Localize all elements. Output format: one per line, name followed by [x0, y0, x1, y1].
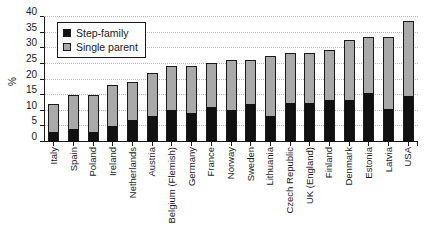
stacked-bar [186, 66, 197, 142]
stacked-bar [324, 50, 335, 142]
legend-swatch-icon [63, 43, 71, 51]
x-label-cell: Finland [320, 147, 340, 237]
x-axis-tick-label: Sweden [246, 147, 256, 181]
stacked-bar [363, 37, 374, 142]
y-axis-tick-label: 35 [26, 23, 37, 33]
legend-item-label: Step-family [76, 28, 129, 39]
bar-column [398, 17, 418, 142]
x-axis-labels: ItalySpainPolandIrelandNetherlandsAustri… [44, 147, 418, 237]
x-axis-tick [368, 142, 369, 146]
x-label-cell: France [202, 147, 222, 237]
x-label-cell: Sweden [241, 147, 261, 237]
y-axis-tick-label: 20 [26, 70, 37, 80]
stacked-bar [344, 40, 355, 142]
y-axis-tick-label: 15 [26, 85, 37, 95]
y-axis-tick-label: 40 [26, 7, 37, 17]
bar-segment-step-family [384, 109, 393, 142]
x-tick-cell [162, 142, 182, 146]
bar-segment-step-family [305, 103, 314, 142]
bar-column [339, 17, 359, 142]
bar-segment-step-family [404, 96, 413, 142]
bar-segment-step-family [128, 120, 137, 143]
x-tick-cell [123, 142, 143, 146]
x-label-cell: Germany [182, 147, 202, 237]
bar-segment-step-family [167, 110, 176, 142]
x-axis-tick-label: Spain [69, 147, 79, 171]
x-tick-cell [241, 142, 261, 146]
x-axis-tick-label: Austria [147, 147, 157, 177]
y-axis-tick-label: 5 [31, 116, 37, 126]
x-label-cell: Denmark [339, 147, 359, 237]
stacked-bar [68, 95, 79, 142]
bar-column [379, 17, 399, 142]
bar-segment-step-family [325, 100, 334, 142]
bar-column [359, 17, 379, 142]
x-axis-tick [250, 142, 251, 146]
x-tick-cell [44, 142, 64, 146]
x-axis-tick-label: Belgium (Flemish) [167, 147, 177, 224]
x-axis-tick [73, 142, 74, 146]
x-axis-tick [53, 142, 54, 146]
bar-segment-step-family [108, 126, 117, 142]
y-axis-tick-label: 25 [26, 54, 37, 64]
x-axis-tick [112, 142, 113, 146]
x-axis-tick-label: Denmark [344, 147, 354, 186]
bar-column [241, 17, 261, 142]
stacked-bar [265, 56, 276, 142]
x-label-cell: Lithuania [261, 147, 281, 237]
y-axis-tick-label: 30 [26, 38, 37, 48]
bar-segment-step-family [89, 132, 98, 142]
x-axis-tick-label: France [206, 147, 216, 177]
x-label-cell: Spain [64, 147, 84, 237]
x-axis-tick [152, 142, 153, 146]
chart-legend: Step-familySingle parent [57, 22, 146, 58]
x-label-cell: Austria [142, 147, 162, 237]
x-axis-tick [388, 142, 389, 146]
x-label-cell: Poland [83, 147, 103, 237]
bar-column [261, 17, 281, 142]
x-axis-tick [171, 142, 172, 146]
x-axis-end-tick [417, 142, 418, 146]
x-axis-tick-label: Finland [324, 147, 334, 178]
x-label-cell: UK (England) [300, 147, 320, 237]
x-label-cell: Italy [44, 147, 64, 237]
x-label-cell: Czech Republic [280, 147, 300, 237]
bar-column [320, 17, 340, 142]
x-axis-tick [290, 142, 291, 146]
x-label-cell: Latvia [379, 147, 399, 237]
x-label-cell: Belgium (Flemish) [162, 147, 182, 237]
bar-segment-step-family [49, 132, 58, 142]
x-tick-cell [300, 142, 320, 146]
x-label-cell: Estonia [359, 147, 379, 237]
x-tick-cell [64, 142, 84, 146]
x-tick-cell [202, 142, 222, 146]
x-axis-tick [309, 142, 310, 146]
x-tick-cell [359, 142, 379, 146]
x-tick-cell [83, 142, 103, 146]
bar-segment-step-family [286, 103, 295, 142]
stacked-bar [48, 104, 59, 142]
x-label-cell: Netherlands [123, 147, 143, 237]
bar-column [221, 17, 241, 142]
x-axis-tick [231, 142, 232, 146]
stacked-bar [304, 53, 315, 142]
x-tick-cell [379, 142, 399, 146]
x-axis-tick-label: UK (England) [305, 147, 315, 204]
stacked-bar [206, 63, 217, 142]
stacked-bar [88, 95, 99, 142]
x-axis-tick [93, 142, 94, 146]
x-axis-tick-label: Latvia [384, 147, 394, 172]
x-axis-tick-label: Lithuania [265, 147, 275, 186]
bar-column [202, 17, 222, 142]
x-axis-tick [191, 142, 192, 146]
stacked-bar [127, 82, 138, 142]
bar-segment-step-family [364, 93, 373, 142]
x-label-cell: USA [398, 147, 418, 237]
x-tick-cell [142, 142, 162, 146]
x-axis-tick-label: Norway [226, 147, 236, 179]
x-axis-tick-label: Poland [88, 147, 98, 177]
bar-segment-step-family [266, 116, 275, 142]
x-axis-tick [349, 142, 350, 146]
x-tick-cell [261, 142, 281, 146]
x-axis-tick [270, 142, 271, 146]
